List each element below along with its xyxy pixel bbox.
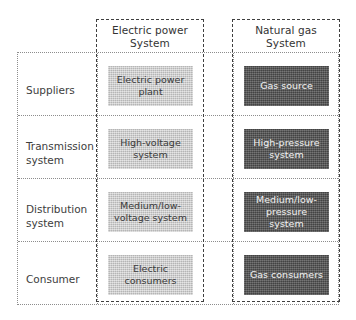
row-label-consumer-line1: Consumer [26, 272, 96, 286]
row-label-transmission-line1: Transmission [26, 139, 96, 153]
row-separator-2 [18, 178, 338, 179]
node-high-voltage-system[interactable]: High-voltage system [108, 129, 193, 169]
column-header-gas-line1: Natural gas [232, 24, 340, 37]
row-separator-3 [18, 241, 338, 242]
row-label-consumer: Consumer [26, 272, 96, 286]
row-label-distribution-line1: Distribution [26, 202, 96, 216]
column-separator-2 [233, 53, 234, 304]
node-medium-low-pressure-system[interactable]: Medium/low-pressure system [244, 192, 329, 232]
row-label-suppliers-line1: Suppliers [26, 83, 96, 97]
node-gas-consumers[interactable]: Gas consumers [244, 255, 329, 295]
column-header-gas-line2: System [232, 37, 340, 50]
node-gas-source[interactable]: Gas source [244, 66, 329, 106]
row-label-suppliers: Suppliers [26, 83, 96, 97]
row-label-transmission: Transmission system [26, 139, 96, 167]
system-hierarchy-diagram: Electric power System Natural gas System… [0, 0, 356, 320]
column-header-electric: Electric power System [96, 24, 204, 50]
row-label-distribution: Distribution system [26, 202, 96, 230]
column-header-electric-line1: Electric power [96, 24, 204, 37]
row-separator-1 [18, 115, 338, 116]
node-medium-low-voltage-system[interactable]: Medium/low-voltage system [108, 192, 193, 232]
column-header-electric-line2: System [96, 37, 204, 50]
row-label-transmission-line2: system [26, 153, 96, 167]
row-label-distribution-line2: system [26, 216, 96, 230]
node-electric-consumers[interactable]: Electric consumers [108, 255, 193, 295]
node-high-pressure-system[interactable]: High-pressure system [244, 129, 329, 169]
column-header-gas: Natural gas System [232, 24, 340, 50]
node-electric-power-plant[interactable]: Electric power plant [108, 66, 193, 106]
column-separator-1 [97, 53, 98, 304]
